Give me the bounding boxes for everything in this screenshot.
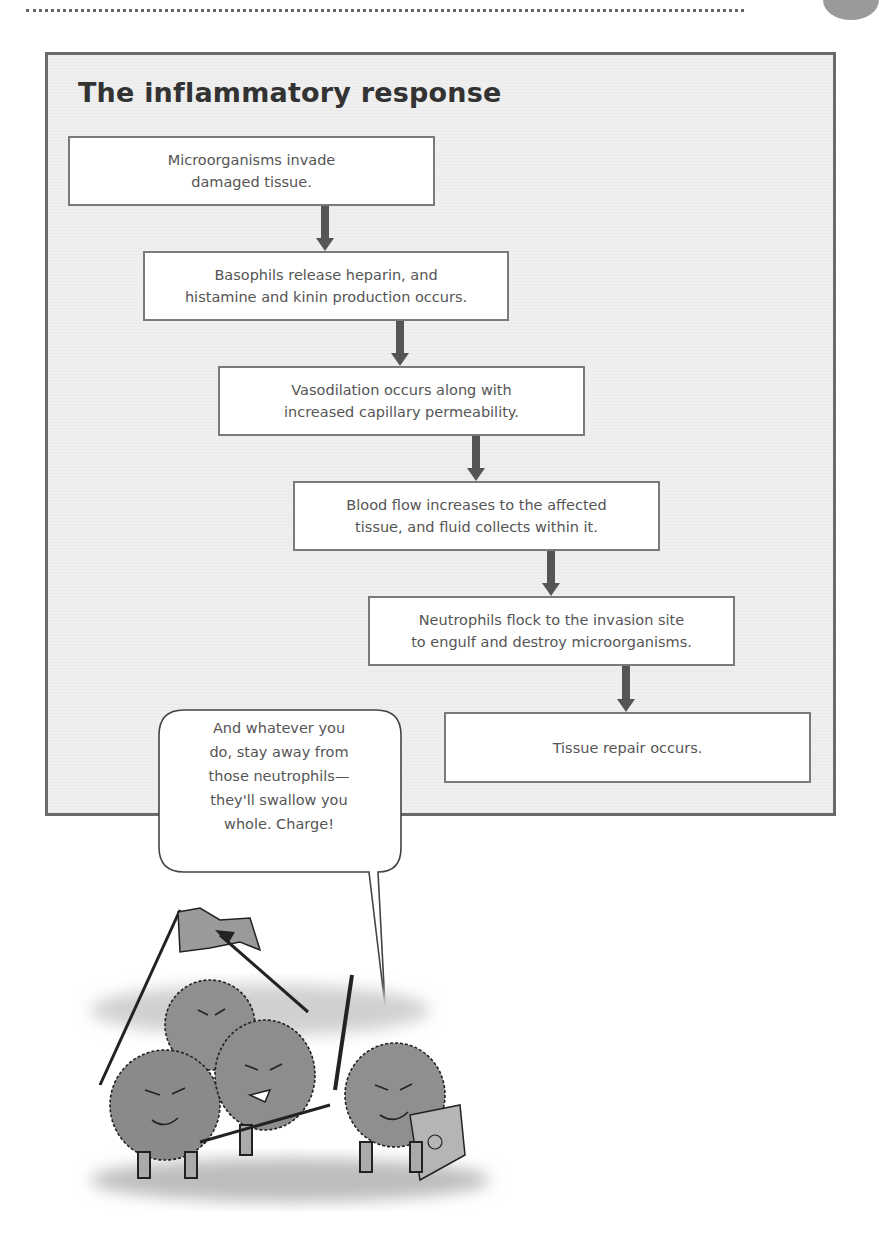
step-5-box: Neutrophils flock to the invasion site t… <box>368 596 735 666</box>
step-4-box: Blood flow increases to the affected tis… <box>293 481 660 551</box>
microorganism-army-illustration <box>60 880 510 1220</box>
diagram-title: The inflammatory response <box>78 77 502 108</box>
step-3-box: Vasodilation occurs along with increased… <box>218 366 585 436</box>
step-1-box: Microorganisms invade damaged tissue. <box>68 136 435 206</box>
arrow-down-icon <box>467 436 485 481</box>
speech-bubble-text: And whatever you do, stay away from thos… <box>160 716 398 836</box>
page-tab-marker <box>823 0 879 20</box>
step-6-box: Tissue repair occurs. <box>444 712 811 783</box>
header-dotted-rule <box>26 9 744 12</box>
arrow-down-icon <box>542 551 560 596</box>
arrow-down-icon <box>391 321 409 366</box>
step-2-box: Basophils release heparin, and histamine… <box>143 251 509 321</box>
arrow-down-icon <box>316 206 334 251</box>
arrow-down-icon <box>617 666 635 712</box>
